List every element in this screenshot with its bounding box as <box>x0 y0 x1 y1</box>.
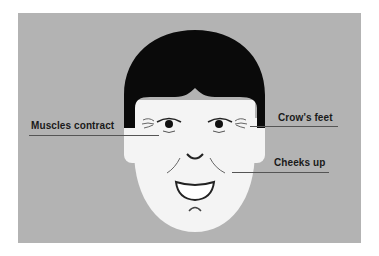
leader-line-crows-feet <box>250 126 338 127</box>
leader-line-muscles <box>29 135 159 136</box>
label-cheeks-up: Cheeks up <box>274 157 325 168</box>
leader-line-cheeks <box>232 172 329 173</box>
label-crows-feet: Crow's feet <box>278 112 333 123</box>
label-muscles-contract: Muscles contract <box>31 120 114 131</box>
